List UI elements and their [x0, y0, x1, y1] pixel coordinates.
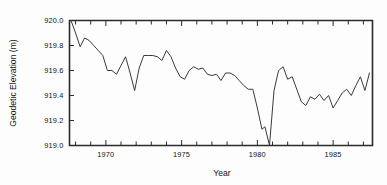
x-axis-title: Year	[213, 168, 231, 178]
x-axis-tick-labels: 1970197519801985	[97, 150, 341, 159]
x-axis-ticks-bottom	[76, 140, 364, 146]
y-tick-label: 919.8	[44, 41, 63, 50]
x-tick-label: 1985	[325, 150, 342, 159]
line-chart-svg: Geodetic Elevation (m) 919.0919.2919.491…	[0, 0, 387, 185]
data-series-line	[71, 21, 369, 146]
x-axis-ticks-top	[76, 21, 364, 27]
y-tick-label: 919.4	[44, 91, 63, 100]
plot-frame	[70, 21, 373, 146]
y-axis-title: Geodetic Elevation (m)	[8, 39, 18, 127]
y-tick-label: 919.6	[44, 66, 63, 75]
x-tick-label: 1970	[97, 150, 114, 159]
x-tick-label: 1980	[249, 150, 266, 159]
y-tick-label: 920.0	[44, 16, 63, 25]
x-tick-label: 1975	[173, 150, 190, 159]
y-tick-label: 919.2	[44, 116, 63, 125]
y-tick-label: 919.0	[44, 141, 63, 150]
chart-figure: Geodetic Elevation (m) 919.0919.2919.491…	[0, 0, 387, 185]
y-axis-tick-labels: 919.0919.2919.4919.6919.8920.0	[44, 16, 63, 150]
